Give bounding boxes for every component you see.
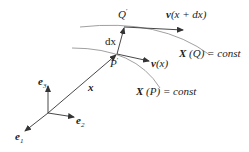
label-Q: Q′	[118, 8, 127, 20]
dx-vector	[117, 28, 124, 54]
label-XQ-const: X (Q) = const	[179, 48, 241, 59]
label-e1: e1	[15, 131, 23, 145]
e1-arrow	[25, 113, 48, 131]
label-e3: e3	[38, 76, 46, 90]
label-XP-const: X (P) = const	[136, 86, 196, 97]
label-P: P′	[110, 57, 118, 69]
label-dx: dx	[105, 36, 116, 47]
vx-vector	[117, 54, 149, 61]
label-v-x: v(x)	[151, 58, 168, 69]
diagram-canvas: Q′ v(x + dx) dx X (Q) = const P′ v(x) X …	[0, 0, 249, 152]
label-e2: e2	[76, 115, 84, 129]
e2-arrow	[48, 113, 74, 117]
x-vector	[48, 55, 116, 113]
label-x: x	[88, 82, 94, 93]
label-v-x-dx: v(x + dx)	[166, 9, 206, 20]
